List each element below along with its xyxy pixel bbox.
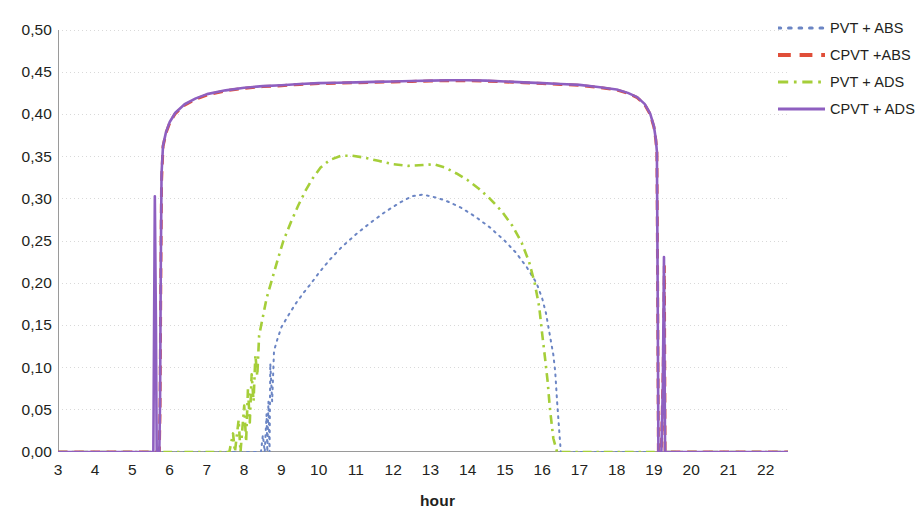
x-axis-tick-label: 22 — [757, 462, 774, 478]
x-axis-labels: 345678910111213141516171819202122 — [58, 462, 818, 488]
y-axis-tick-label: 0,30 — [0, 191, 52, 207]
chart-legend: PVT + ABSCPVT +ABSPVT + ADSCPVT + ADS — [778, 14, 915, 122]
x-axis-tick-label: 21 — [720, 462, 737, 478]
legend-swatch-icon — [778, 49, 825, 61]
x-axis-tick-label: 9 — [277, 462, 286, 478]
x-axis-tick-label: 13 — [422, 462, 439, 478]
x-axis-tick-label: 7 — [203, 462, 212, 478]
y-axis-tick-label: 0,00 — [0, 444, 52, 460]
legend-item-cpvt-abs[interactable]: CPVT +ABS — [778, 41, 915, 68]
x-axis-title: hour — [0, 492, 875, 510]
y-axis-tick-label: 0,35 — [0, 149, 52, 165]
y-axis-tick-label: 0,25 — [0, 233, 52, 249]
legend-swatch-icon — [778, 103, 825, 115]
legend-label: CPVT +ABS — [830, 47, 911, 63]
y-axis-tick-label: 0,20 — [0, 275, 52, 291]
y-axis-tick-label: 0,45 — [0, 64, 52, 80]
series-line-pvt-ads — [58, 156, 788, 452]
y-axis-tick-label: 0,15 — [0, 318, 52, 334]
legend-swatch-icon — [778, 22, 825, 34]
legend-item-cpvt-ads[interactable]: CPVT + ADS — [778, 95, 915, 122]
y-axis-tick-label: 0,50 — [0, 22, 52, 38]
plot-svg — [58, 30, 788, 452]
y-axis-tick-label: 0,10 — [0, 360, 52, 376]
x-axis-tick-label: 5 — [128, 462, 137, 478]
legend-label: PVT + ABS — [830, 20, 904, 36]
y-axis-labels: 0,000,050,100,150,200,250,300,350,400,45… — [0, 30, 52, 452]
x-axis-tick-label: 15 — [496, 462, 513, 478]
series-line-cpvt-ads — [58, 80, 788, 452]
x-axis-tick-label: 16 — [533, 462, 550, 478]
x-axis-tick-label: 8 — [240, 462, 249, 478]
y-axis-tick-label: 0,05 — [0, 402, 52, 418]
x-axis-tick-label: 19 — [645, 462, 662, 478]
x-axis-tick-label: 11 — [348, 462, 364, 478]
gridlines — [58, 30, 788, 410]
x-axis-tick-label: 12 — [384, 462, 401, 478]
x-axis-tick-label: 10 — [310, 462, 327, 478]
x-axis-tick-label: 17 — [571, 462, 588, 478]
x-axis-tick-label: 14 — [459, 462, 476, 478]
legend-label: PVT + ADS — [830, 74, 904, 90]
chart-container: 0,000,050,100,150,200,250,300,350,400,45… — [0, 0, 915, 519]
x-axis-tick-label: 4 — [91, 462, 100, 478]
legend-label: CPVT + ADS — [830, 101, 915, 117]
legend-item-pvt-abs[interactable]: PVT + ABS — [778, 14, 915, 41]
plot-area — [58, 30, 788, 452]
series-line-cpvt-abs — [58, 81, 788, 452]
x-axis-tick-label: 18 — [608, 462, 625, 478]
y-axis-tick-label: 0,40 — [0, 107, 52, 123]
x-axis-tick-label: 20 — [682, 462, 699, 478]
x-axis-tick-label: 6 — [165, 462, 174, 478]
series-group — [58, 80, 788, 452]
series-line-pvt-abs — [58, 195, 788, 452]
legend-swatch-icon — [778, 76, 825, 88]
legend-item-pvt-ads[interactable]: PVT + ADS — [778, 68, 915, 95]
x-axis-tick-label: 3 — [54, 462, 63, 478]
